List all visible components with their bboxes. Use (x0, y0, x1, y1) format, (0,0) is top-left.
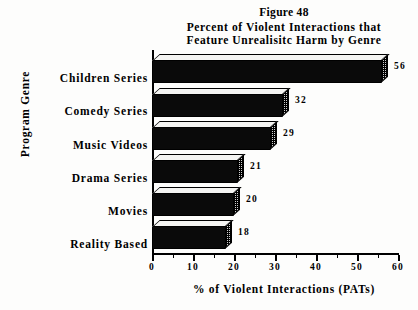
bar-side-music-videos (270, 121, 277, 150)
bar-side-drama-series (237, 154, 244, 183)
x-tick-20 (234, 255, 236, 261)
bar-value-drama-series: 21 (250, 161, 262, 171)
chart-subtitle-line-1: Percent of Violent Interactions that (150, 21, 418, 35)
bar-front-movies (152, 193, 234, 216)
bar-top-children-series (152, 54, 390, 61)
x-tick-50 (357, 255, 359, 261)
chart-subtitle-line-2: Feature Unrealisitc Harm by Genre (150, 34, 418, 48)
x-tick-label-50: 50 (351, 262, 363, 272)
x-tick-label-30: 30 (269, 262, 281, 272)
chart-title-block: Figure 48 Percent of Violent Interaction… (150, 6, 418, 48)
bar-top-drama-series (152, 154, 246, 161)
x-tick-5 (173, 255, 174, 258)
x-tick-label-0: 0 (149, 262, 155, 272)
x-tick-0 (152, 255, 154, 261)
bar-value-movies: 20 (246, 194, 258, 204)
x-tick-label-40: 40 (310, 262, 322, 272)
y-axis-tick-labels: Children Series Comedy Series Music Vide… (16, 50, 148, 256)
bar-top-reality-based (152, 220, 234, 227)
bar-value-music-videos: 29 (283, 128, 295, 138)
y-tick-label-drama-series: Drama Series (18, 172, 148, 184)
x-tick-label-20: 20 (228, 262, 240, 272)
x-tick-label-10: 10 (187, 262, 199, 272)
bar-front-music-videos (152, 127, 271, 150)
y-tick-label-comedy-series: Comedy Series (18, 105, 148, 117)
x-tick-55 (378, 255, 379, 258)
bar-value-comedy-series: 32 (295, 95, 307, 105)
bar-side-reality-based (225, 220, 232, 249)
x-tick-10 (193, 255, 195, 261)
x-tick-15 (214, 255, 215, 258)
x-tick-60 (398, 255, 400, 261)
x-tick-label-60: 60 (392, 262, 404, 272)
y-tick-label-movies: Movies (18, 205, 148, 217)
bar-front-reality-based (152, 226, 226, 249)
bar-value-children-series: 56 (394, 61, 406, 71)
bar-front-drama-series (152, 160, 238, 183)
bar-side-comedy-series (282, 88, 289, 117)
x-axis-title: % of Violent Interactions (PATs) (150, 283, 418, 295)
x-tick-35 (296, 255, 297, 258)
bar-top-movies (152, 187, 242, 194)
x-tick-30 (275, 255, 277, 261)
bar-front-comedy-series (152, 94, 283, 117)
plot-area: 0 10 20 30 40 50 60 56 32 29 (152, 50, 399, 256)
bar-side-movies (233, 187, 240, 216)
x-tick-45 (337, 255, 338, 258)
bar-front-children-series (152, 60, 382, 83)
y-tick-label-children-series: Children Series (18, 72, 148, 84)
y-tick-label-reality-based: Reality Based (18, 238, 148, 250)
figure-chart: Figure 48 Percent of Violent Interaction… (0, 0, 418, 310)
bar-top-music-videos (152, 121, 279, 128)
y-tick-label-music-videos: Music Videos (18, 139, 148, 151)
x-tick-25 (255, 255, 256, 258)
figure-number: Figure 48 (150, 6, 418, 21)
bar-side-children-series (381, 54, 388, 83)
x-tick-40 (316, 255, 318, 261)
bar-value-reality-based: 18 (238, 227, 250, 237)
bar-top-comedy-series (152, 88, 291, 95)
